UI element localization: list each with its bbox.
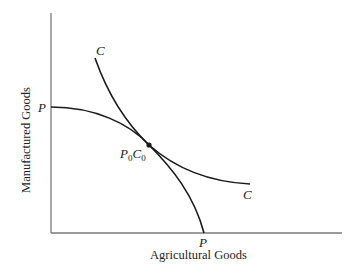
indifference-label-end: C (243, 188, 252, 201)
tangency-label: P0C0 (120, 147, 146, 163)
ppf-label-start: P (38, 101, 46, 114)
y-axis-title: Manufactured Goods (20, 87, 33, 193)
tangency-label-c-sub: 0 (141, 153, 146, 163)
indifference-label-start: C (96, 44, 105, 57)
ppf-curve (51, 107, 204, 233)
tangency-label-c: C (132, 146, 141, 161)
tangency-point (146, 142, 151, 147)
diagram-canvas (0, 0, 354, 278)
indifference-curve (95, 58, 250, 184)
x-axis-title: Agricultural Goods (150, 249, 247, 262)
tangency-label-p: P (120, 146, 128, 161)
